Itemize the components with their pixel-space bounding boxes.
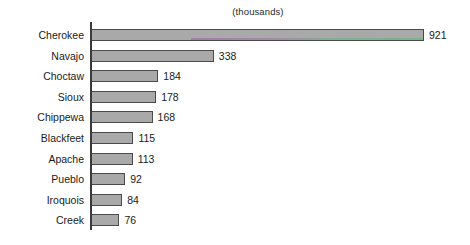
bar-row: Creek76 [0,211,470,230]
bar-value-label: 338 [219,47,237,66]
bar [92,50,214,62]
bar-value-label: 84 [127,191,139,210]
category-label: Cherokee [0,26,84,45]
bar [92,214,119,226]
bar [92,111,153,123]
category-label: Blackfeet [0,129,84,148]
bar-row: Pueblo92 [0,170,470,189]
bar-row: Blackfeet115 [0,129,470,148]
bar [92,153,133,165]
bar-value-label: 168 [158,108,176,127]
bar-value-label: 184 [163,67,181,86]
bar-row: Cherokee921 [0,26,470,45]
bar-row: Apache113 [0,150,470,169]
plot-area: Cherokee921Navajo338Choctaw184Sioux178Ch… [0,0,470,245]
category-label: Creek [0,211,84,230]
category-label: Apache [0,150,84,169]
bar [92,91,156,103]
category-label: Chippewa [0,108,84,127]
bar-row: Choctaw184 [0,67,470,86]
bar [92,194,122,206]
bar-chart-figure: (thousands) Cherokee921Navajo338Choctaw1… [0,0,470,245]
bar-value-label: 76 [124,211,136,230]
category-label: Pueblo [0,170,84,189]
bar [92,132,133,144]
bar-value-label: 92 [130,170,142,189]
category-label: Choctaw [0,67,84,86]
category-label: Iroquois [0,191,84,210]
bar-value-label: 921 [429,26,447,45]
bar-row: Iroquois84 [0,191,470,210]
bar-value-label: 115 [138,129,155,148]
category-label: Navajo [0,47,84,66]
bar [92,29,424,41]
bar [92,70,158,82]
bar [92,173,125,185]
bar-row: Navajo338 [0,47,470,66]
bar-value-label: 178 [161,88,179,107]
bar-value-label: 113 [138,150,155,169]
bar-row: Sioux178 [0,88,470,107]
bar-row: Chippewa168 [0,108,470,127]
category-label: Sioux [0,88,84,107]
